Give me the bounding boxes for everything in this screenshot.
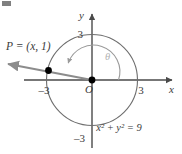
y-tick-positive-3: 3 <box>78 28 84 40</box>
point-p-label: P = (x, 1) <box>5 40 51 53</box>
x-tick-negative-3: –3 <box>38 84 51 96</box>
origin-label: O <box>85 83 93 95</box>
y-axis-label: y <box>78 9 84 21</box>
coordinate-plane-figure: P = (x, 1) O θ x y x² + y² = 9 –3 3 3 –3 <box>0 0 182 154</box>
x-axis-label: x <box>168 83 174 95</box>
circle-equation-label: x² + y² = 9 <box>95 122 142 133</box>
y-tick-negative-3: –3 <box>73 132 86 144</box>
figure-container: P = (x, 1) O θ x y x² + y² = 9 –3 3 3 –3 <box>0 0 182 154</box>
x-tick-positive-3: 3 <box>138 84 144 96</box>
point-p <box>45 67 52 74</box>
theta-label: θ <box>105 51 110 62</box>
angle-arc-theta <box>68 45 120 80</box>
